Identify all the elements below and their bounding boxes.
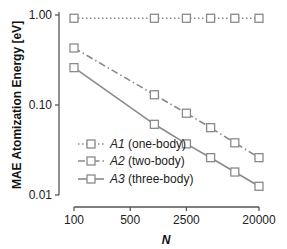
x-tick-label: 2500 bbox=[173, 213, 200, 227]
data-point-marker bbox=[70, 44, 78, 52]
x-tick-label: 100 bbox=[64, 213, 84, 227]
x-tick-label: 500 bbox=[120, 213, 140, 227]
data-point-marker bbox=[182, 14, 190, 22]
data-point-marker bbox=[182, 109, 190, 117]
y-tick-label: 1.00 bbox=[29, 8, 53, 22]
legend-item-1: A1 (one-body) bbox=[78, 137, 186, 151]
x-axis: 100500250020000 bbox=[64, 207, 276, 227]
legend-marker bbox=[87, 175, 95, 183]
y-axis: 0.010.101.00 bbox=[29, 8, 59, 202]
legend-marker bbox=[87, 140, 95, 148]
y-tick-label: 0.10 bbox=[29, 98, 53, 112]
data-point-marker bbox=[231, 139, 239, 147]
legend: A1 (one-body)A2 (two-body)A3 (three-body… bbox=[78, 137, 193, 186]
data-point-marker bbox=[255, 154, 263, 162]
y-tick-label: 0.01 bbox=[29, 188, 53, 202]
legend-label: A1 (one-body) bbox=[109, 137, 186, 151]
data-point-marker bbox=[255, 14, 263, 22]
legend-label: A3 (three-body) bbox=[109, 172, 193, 186]
legend-item-3: A3 (three-body) bbox=[78, 172, 193, 186]
x-tick-label: 20000 bbox=[242, 213, 276, 227]
data-point-marker bbox=[150, 120, 158, 128]
data-point-marker bbox=[70, 14, 78, 22]
series-1 bbox=[70, 14, 263, 22]
data-point-marker bbox=[207, 154, 215, 162]
y-axis-title: MAE Atomization Energy [eV] bbox=[10, 21, 24, 189]
x-axis-title: N bbox=[162, 233, 171, 247]
data-point-marker bbox=[150, 91, 158, 99]
data-point-marker bbox=[70, 64, 78, 72]
legend-label: A2 (two-body) bbox=[109, 154, 185, 168]
data-point-marker bbox=[255, 182, 263, 190]
data-point-marker bbox=[231, 14, 239, 22]
data-point-marker bbox=[207, 14, 215, 22]
legend-item-2: A2 (two-body) bbox=[78, 154, 185, 168]
data-point-marker bbox=[231, 168, 239, 176]
chart: 0.010.101.00 100500250020000 A1 (one-bod… bbox=[0, 0, 287, 249]
legend-marker bbox=[87, 157, 95, 165]
data-point-marker bbox=[207, 124, 215, 132]
data-point-marker bbox=[150, 14, 158, 22]
